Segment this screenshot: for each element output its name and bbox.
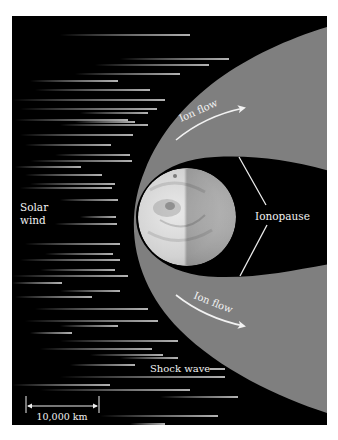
solar-wind-streak xyxy=(35,89,150,90)
solar-wind-streak xyxy=(60,325,118,326)
solar-wind-streak xyxy=(120,357,178,358)
solar-wind-label-line1: Solar xyxy=(20,201,49,213)
solar-wind-streak xyxy=(12,275,128,276)
solar-wind-streak xyxy=(60,199,118,200)
solar-wind-streak xyxy=(20,259,120,260)
solar-wind-streak xyxy=(60,376,225,377)
solar-wind-streak xyxy=(15,166,81,167)
solar-wind-streak xyxy=(12,384,110,385)
solar-wind-streak xyxy=(35,308,148,309)
solar-wind-streak xyxy=(75,73,180,74)
solar-wind-streak xyxy=(120,58,229,59)
scale-bar-label: 10,000 km xyxy=(36,411,87,422)
solar-wind-streak xyxy=(20,108,157,109)
solar-wind-streak xyxy=(95,64,209,65)
diagram-panel: Ionopause Ion flow Ion flow Solar wind S… xyxy=(12,16,330,425)
solar-wind-streak xyxy=(25,174,102,175)
solar-wind-streak xyxy=(40,269,115,270)
solar-wind-streak xyxy=(160,396,238,397)
solar-wind-streak xyxy=(20,187,112,188)
solar-wind-streak xyxy=(60,340,178,341)
solar-wind-streak xyxy=(15,296,92,297)
solar-wind-streak xyxy=(100,415,218,416)
solar-wind-streak xyxy=(60,290,120,291)
solar-wind-streak xyxy=(130,423,165,424)
solar-wind-streak xyxy=(30,160,132,161)
solar-wind-streak xyxy=(40,389,190,390)
solar-wind-streak xyxy=(45,253,113,254)
venus-solar-wind-diagram: Ionopause Ion flow Ion flow Solar wind S… xyxy=(0,0,338,440)
solar-wind-streak xyxy=(25,144,111,145)
solar-wind-streak xyxy=(90,354,163,355)
venus-planet xyxy=(138,168,236,266)
solar-wind-streak xyxy=(40,348,152,349)
shock-wave-label: Shock wave xyxy=(150,363,210,374)
ionopause-label: Ionopause xyxy=(255,210,310,222)
solar-wind-streak xyxy=(25,320,158,321)
solar-wind-streak xyxy=(15,119,128,120)
solar-wind-streak xyxy=(30,332,72,333)
solar-wind-streak xyxy=(12,99,165,100)
solar-wind-streak xyxy=(30,183,115,184)
solar-wind-streak xyxy=(55,154,130,155)
solar-wind-streak xyxy=(80,112,148,113)
solar-wind-streak xyxy=(80,216,116,217)
solar-wind-label-line2: wind xyxy=(20,214,46,226)
solar-wind-streak xyxy=(60,34,190,35)
solar-wind-streak xyxy=(70,364,135,365)
solar-wind-streak xyxy=(75,121,135,122)
solar-wind-streak xyxy=(25,243,120,244)
solar-wind-streak xyxy=(12,282,62,283)
solar-wind-streak xyxy=(30,80,118,81)
solar-wind-streak xyxy=(20,134,133,135)
solar-wind-streak xyxy=(55,223,117,224)
solar-wind-streak xyxy=(60,124,148,125)
